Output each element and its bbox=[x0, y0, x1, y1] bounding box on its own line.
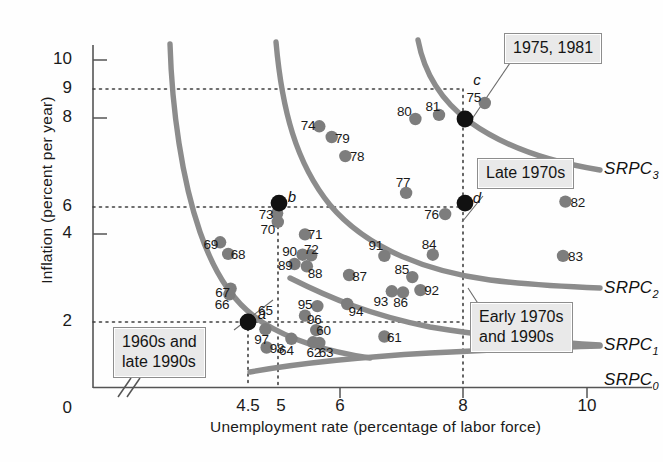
srpc3-sub: 3 bbox=[652, 169, 658, 181]
y-tick-label-9: 9 bbox=[32, 78, 72, 98]
srpc1-label: SRPC1 bbox=[604, 335, 659, 356]
year-label-70: 70 bbox=[260, 221, 275, 236]
year-label-95: 95 bbox=[298, 297, 313, 312]
year-label-77: 77 bbox=[396, 175, 411, 190]
year-label-78: 78 bbox=[350, 148, 365, 163]
year-label-89: 89 bbox=[278, 257, 293, 272]
year-label-63: 63 bbox=[319, 345, 334, 360]
callout-early-line2: and 1990s bbox=[479, 327, 564, 347]
year-label-85: 85 bbox=[394, 262, 409, 277]
year-label-65: 65 bbox=[258, 303, 273, 318]
callout-early-1970s-and-1990s: Early 1970s and 1990s bbox=[470, 302, 573, 353]
x-tick-label-10: 10 bbox=[578, 396, 597, 416]
equilibrium-label-c: c bbox=[473, 71, 481, 88]
year-label-72: 72 bbox=[304, 241, 319, 256]
x-tick-label-5: 5 bbox=[276, 396, 285, 416]
year-label-82: 82 bbox=[570, 194, 585, 209]
srpc0-sub: 0 bbox=[652, 380, 658, 392]
srpc0-base: SRPC bbox=[604, 370, 652, 389]
callout-1975-1981: 1975, 1981 bbox=[504, 33, 602, 64]
srpc3-base: SRPC bbox=[604, 159, 652, 178]
x-tick-label-8: 8 bbox=[458, 396, 467, 416]
year-label-80: 80 bbox=[397, 103, 412, 118]
year-label-93: 93 bbox=[373, 294, 388, 309]
equilibrium-point-d bbox=[457, 195, 474, 212]
srpc1-sub: 1 bbox=[652, 345, 658, 357]
equilibrium-point-c bbox=[457, 111, 474, 128]
year-label-86: 86 bbox=[393, 294, 408, 309]
year-label-60: 60 bbox=[316, 323, 331, 338]
year-label-61: 61 bbox=[387, 329, 402, 344]
year-label-91: 91 bbox=[368, 237, 383, 252]
y-tick-label-2: 2 bbox=[32, 311, 72, 331]
y-tick-label-10: 10 bbox=[32, 49, 72, 69]
year-label-69: 69 bbox=[203, 236, 218, 251]
origin-label: 0 bbox=[32, 398, 72, 418]
equilibrium-point-a bbox=[240, 314, 257, 331]
y-tick-label-4: 4 bbox=[32, 223, 72, 243]
year-label-83: 83 bbox=[568, 248, 583, 263]
year-label-75: 75 bbox=[466, 90, 481, 105]
year-label-97: 97 bbox=[254, 331, 269, 346]
year-label-81: 81 bbox=[425, 98, 440, 113]
srpc3-label: SRPC3 bbox=[604, 159, 659, 180]
year-label-68: 68 bbox=[231, 246, 246, 261]
callout-late-1970s-line1: Late 1970s bbox=[486, 163, 565, 183]
year-label-90: 90 bbox=[282, 243, 297, 258]
y-tick-label-6: 6 bbox=[32, 196, 72, 216]
callout-1960s-line1: 1960s and bbox=[122, 332, 197, 352]
callout-early-line1: Early 1970s bbox=[479, 307, 564, 327]
data-point-76 bbox=[439, 208, 451, 220]
year-label-98: 98 bbox=[270, 341, 285, 356]
srpc1-base: SRPC bbox=[604, 335, 652, 354]
y-tick-marks bbox=[93, 60, 107, 234]
data-point-95 bbox=[311, 300, 323, 312]
equilibrium-label-d: d bbox=[473, 189, 481, 206]
chart-canvas bbox=[0, 0, 663, 462]
year-label-88: 88 bbox=[308, 265, 323, 280]
year-label-87: 87 bbox=[352, 269, 367, 284]
callout-1975-1981-line1: 1975, 1981 bbox=[513, 38, 593, 58]
x-tick-label-6: 6 bbox=[335, 396, 344, 416]
callout-1960s-late-1990s: 1960s and late 1990s bbox=[113, 327, 206, 378]
y-tick-label-8: 8 bbox=[32, 107, 72, 127]
x-axis-title: Unemployment rate (percentage of labor f… bbox=[210, 418, 541, 436]
year-label-71: 71 bbox=[308, 227, 323, 242]
srpc2-sub: 2 bbox=[652, 288, 658, 300]
year-label-76: 76 bbox=[424, 206, 439, 221]
callout-late-1970s: Late 1970s bbox=[477, 158, 574, 189]
year-label-94: 94 bbox=[349, 304, 364, 319]
year-label-74: 74 bbox=[301, 118, 316, 133]
x-tick-label-4-5: 4.5 bbox=[236, 396, 260, 416]
phillips-curve-figure: Inflation (percent per year) Unemploymen… bbox=[0, 0, 663, 462]
year-label-92: 92 bbox=[424, 283, 439, 298]
srpc0-label: SRPC0 bbox=[604, 370, 659, 391]
equilibrium-label-b: b bbox=[288, 188, 296, 205]
year-label-67: 67 bbox=[215, 285, 230, 300]
year-label-79: 79 bbox=[335, 131, 350, 146]
srpc2-base: SRPC bbox=[604, 278, 652, 297]
year-label-84: 84 bbox=[422, 236, 437, 251]
srpc2-label: SRPC2 bbox=[604, 278, 659, 299]
y-axis-title: Inflation (percent per year) bbox=[38, 65, 56, 315]
year-label-73: 73 bbox=[259, 206, 274, 221]
callout-1960s-line2: late 1990s bbox=[122, 352, 197, 372]
